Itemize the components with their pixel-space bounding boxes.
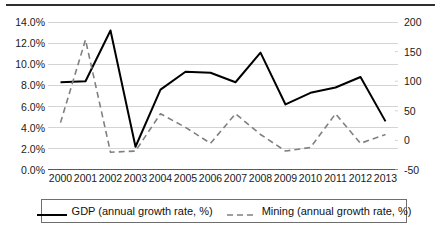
x-axis-tick-label: 2004 — [149, 172, 172, 185]
plot-svg — [48, 22, 398, 170]
y-axis-right-tick-label: -50 — [404, 165, 419, 176]
y-axis-right-tick-label: 50 — [404, 105, 416, 116]
y-axis-right-tick-label: 100 — [404, 76, 422, 87]
top-divider-rule — [6, 4, 435, 6]
legend-entry-gdp[interactable]: GDP (annual growth rate, %) — [37, 205, 213, 217]
x-axis-tick-label: 2011 — [324, 172, 347, 185]
y-axis-right-tick-label: 0 — [404, 135, 410, 146]
series-lines — [61, 30, 386, 152]
y-axis-left-tick-label: 14.0% — [15, 17, 45, 28]
y-axis-left-tick-label: 6.0% — [21, 101, 45, 112]
series-line-gdp — [61, 30, 386, 146]
x-axis-tick-label: 2005 — [174, 172, 197, 185]
x-axis-tick-label: 2000 — [49, 172, 72, 185]
chart-figure: 0.0%2.0%4.0%6.0%8.0%10.0%12.0%14.0% -500… — [0, 0, 441, 231]
x-axis-tick-label: 2001 — [74, 172, 97, 185]
x-axis-tick-label: 2013 — [374, 172, 397, 185]
x-axis-tick-label: 2009 — [274, 172, 297, 185]
gridlines — [48, 22, 398, 170]
y-axis-right: -50050100150200 — [404, 22, 440, 170]
x-axis-tick-label: 2012 — [349, 172, 372, 185]
legend-entry-mining[interactable]: Mining (annual growth rate, %) — [227, 205, 412, 217]
y-axis-left-tick-label: 4.0% — [21, 122, 45, 133]
legend-label: Mining (annual growth rate, %) — [262, 205, 412, 217]
y-axis-left-tick-label: 12.0% — [15, 38, 45, 49]
legend-swatch-dashed-line-icon — [227, 206, 257, 216]
x-axis: 2000200120022003200420052006200720082009… — [48, 172, 398, 188]
series-line-mining — [61, 40, 386, 152]
axis-lines — [48, 22, 398, 170]
x-axis-tick-label: 2007 — [224, 172, 247, 185]
y-axis-right-tick-label: 200 — [404, 17, 422, 28]
x-axis-tick-label: 2010 — [299, 172, 322, 185]
y-axis-left-tick-label: 2.0% — [21, 143, 45, 154]
chart-legend: GDP (annual growth rate, %)Mining (annua… — [41, 199, 407, 223]
legend-label: GDP (annual growth rate, %) — [72, 205, 213, 217]
y-axis-right-tick-label: 150 — [404, 46, 422, 57]
x-axis-tick-label: 2008 — [249, 172, 272, 185]
x-axis-tick-label: 2006 — [199, 172, 222, 185]
y-axis-left-tick-label: 0.0% — [21, 165, 45, 176]
x-axis-tick-label: 2002 — [99, 172, 122, 185]
plot-area — [48, 22, 398, 170]
x-axis-tick-label: 2003 — [124, 172, 147, 185]
y-axis-left-tick-label: 8.0% — [21, 80, 45, 91]
legend-swatch-solid-line-icon — [37, 206, 67, 216]
y-axis-left-tick-label: 10.0% — [15, 59, 45, 70]
y-axis-left: 0.0%2.0%4.0%6.0%8.0%10.0%12.0%14.0% — [0, 22, 45, 170]
